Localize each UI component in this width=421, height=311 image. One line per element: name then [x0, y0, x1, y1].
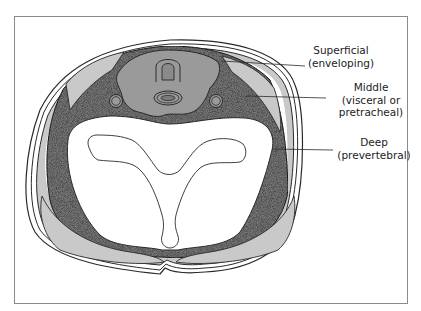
trachea-lumen [162, 64, 174, 81]
carotid-artery-right [212, 97, 221, 106]
label-superficial-line1: Superficial [306, 44, 376, 57]
label-deep-line1: Deep [334, 136, 414, 149]
label-deep-line2: (prevertebral) [334, 149, 414, 162]
carotid-artery-left [112, 97, 121, 106]
label-middle-line1: Middle [332, 81, 410, 94]
label-superficial-fascia: Superficial (enveloping) [306, 44, 376, 69]
label-middle-line2: (visceral or [332, 94, 410, 107]
label-middle-fascia: Middle (visceral or pretracheal) [332, 81, 410, 119]
label-deep-fascia: Deep (prevertebral) [334, 136, 414, 161]
esophagus-lumen [161, 95, 175, 100]
label-middle-line3: pretracheal) [332, 106, 410, 119]
label-superficial-line2: (enveloping) [306, 57, 376, 70]
